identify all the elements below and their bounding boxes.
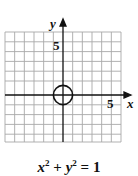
y-axis-label: y — [48, 16, 56, 31]
y-axis-arrow-icon — [60, 19, 66, 26]
equation-caption: x2 + y2 = 1 — [0, 158, 138, 176]
coordinate-plane: y 5 5 x — [0, 0, 138, 176]
x-tick-label-5: 5 — [107, 96, 114, 111]
x-axis-label: x — [126, 96, 134, 111]
y-tick-label-5: 5 — [53, 38, 60, 53]
